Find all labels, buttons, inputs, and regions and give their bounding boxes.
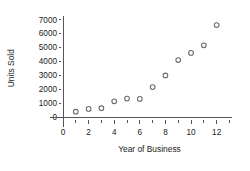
data-point-group [73, 23, 219, 114]
data-point [137, 97, 142, 102]
data-point [86, 107, 91, 112]
data-point [125, 96, 130, 101]
y-tick-label: 3000 [39, 71, 58, 80]
y-tick-label: 6000 [39, 29, 58, 38]
x-tick-label: 8 [163, 128, 168, 137]
y-tick-label: 4000 [39, 57, 58, 66]
y-tick-label: 1000 [39, 99, 58, 108]
x-tick-label: 12 [212, 128, 222, 137]
data-point [176, 58, 181, 63]
chart-canvas: 01000200030004000500060007000 024681012 … [0, 0, 250, 171]
x-axis-tick-labels: 024681012 [61, 128, 222, 137]
y-tick-label: 7000 [39, 16, 58, 25]
y-axis-tick-labels: 01000200030004000500060007000 [39, 16, 58, 123]
x-tick-label: 10 [186, 128, 196, 137]
data-point [73, 109, 78, 114]
x-tick-label: 6 [138, 128, 143, 137]
y-tick-label: 5000 [39, 43, 58, 52]
y-axis-title: Units Sold [6, 49, 16, 88]
data-point [201, 43, 206, 48]
x-tick-label: 4 [112, 128, 117, 137]
data-point [99, 106, 104, 111]
x-axis-title: Year of Business [118, 144, 181, 154]
x-tick-label: 0 [61, 128, 66, 137]
data-point [150, 85, 155, 90]
data-point [163, 73, 168, 78]
data-point [214, 23, 219, 28]
axis-tick-marks [59, 20, 230, 125]
x-tick-label: 2 [86, 128, 91, 137]
scatter-chart: 01000200030004000500060007000 024681012 … [0, 0, 250, 171]
y-tick-label: 2000 [39, 85, 58, 94]
data-point [189, 51, 194, 56]
data-point [112, 99, 117, 104]
